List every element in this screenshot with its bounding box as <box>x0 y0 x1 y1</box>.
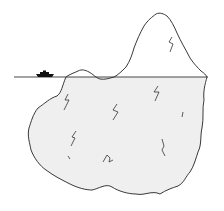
ship-icon <box>36 71 54 78</box>
iceberg-svg <box>0 0 224 211</box>
iceberg-submerged-fill <box>28 77 206 194</box>
iceberg-illustration: iceberg <box>0 0 224 211</box>
crack-mark <box>169 37 173 52</box>
